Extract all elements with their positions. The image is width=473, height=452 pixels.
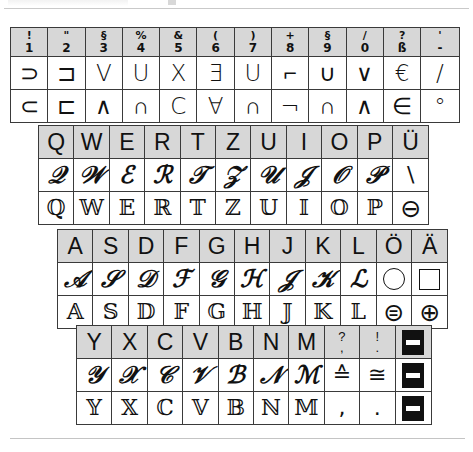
key-e[interactable]: E <box>110 126 145 158</box>
key-9[interactable]: § 9 <box>309 28 346 56</box>
key-m[interactable]: M <box>289 326 324 358</box>
sym-num-lower-12[interactable]: ° <box>421 90 458 122</box>
double-m[interactable]: 𝕄 <box>289 392 324 424</box>
double-g[interactable]: 𝔾 <box>200 296 235 328</box>
script-v[interactable]: 𝒱 <box>183 359 218 391</box>
sym-num-upper-1[interactable]: ⊃ <box>11 57 48 89</box>
key-j[interactable]: J <box>270 230 305 262</box>
key-comma[interactable]: ? , <box>325 326 360 358</box>
key-v[interactable]: V <box>183 326 218 358</box>
sym-num-lower-4[interactable]: ∩ <box>123 90 160 122</box>
sym-num-lower-10[interactable]: ∧ <box>347 90 384 122</box>
sym-circled-minus[interactable]: ⊖ <box>393 192 428 224</box>
double-b[interactable]: 𝔹 <box>219 392 254 424</box>
double-k[interactable]: 𝕂 <box>306 296 341 328</box>
key-u[interactable]: U <box>251 126 286 158</box>
key-b[interactable]: B <box>219 326 254 358</box>
sym-circle-outline[interactable] <box>377 263 412 295</box>
script-d[interactable]: 𝒟 <box>129 263 164 295</box>
sym-num-lower-11[interactable]: ∈ <box>384 90 421 122</box>
key-7[interactable]: ) 7 <box>235 28 272 56</box>
key-o[interactable]: O <box>322 126 357 158</box>
double-w[interactable]: 𝕎 <box>74 192 109 224</box>
sym-num-upper-6[interactable]: Ǝ <box>197 57 234 89</box>
script-t[interactable]: 𝒯 <box>181 159 216 191</box>
double-h[interactable]: ℍ <box>235 296 270 328</box>
script-l[interactable]: ℒ <box>341 263 376 295</box>
sym-num-upper-5[interactable]: X <box>160 57 197 89</box>
key-n[interactable]: N <box>254 326 289 358</box>
key-udiaeresis[interactable]: Ü <box>393 126 428 158</box>
double-s[interactable]: 𝕊 <box>93 296 128 328</box>
sym-num-upper-9[interactable]: ∪ <box>309 57 346 89</box>
sym-circled-equals[interactable]: ⊜ <box>377 296 412 328</box>
key-t[interactable]: T <box>181 126 216 158</box>
key-6[interactable]: ( 6 <box>197 28 234 56</box>
sym-num-lower-7[interactable]: ∩ <box>235 90 272 122</box>
key-x[interactable]: X <box>112 326 147 358</box>
key-box-dash-plain[interactable] <box>396 326 431 358</box>
key-4[interactable]: % 4 <box>123 28 160 56</box>
script-n[interactable]: 𝒩 <box>254 359 289 391</box>
script-m[interactable]: ℳ <box>289 359 324 391</box>
script-x[interactable]: 𝒳 <box>112 359 147 391</box>
double-d[interactable]: 𝔻 <box>129 296 164 328</box>
double-o[interactable]: 𝕆 <box>322 192 357 224</box>
key-period[interactable]: ! . <box>360 326 395 358</box>
script-e[interactable]: ℰ <box>110 159 145 191</box>
sym-num-upper-11[interactable]: € <box>384 57 421 89</box>
sym-num-lower-6[interactable]: ∀ <box>197 90 234 122</box>
double-n[interactable]: ℕ <box>254 392 289 424</box>
sym-period[interactable]: . <box>360 392 395 424</box>
double-q[interactable]: ℚ <box>39 192 74 224</box>
double-t[interactable]: 𝕋 <box>181 192 216 224</box>
key-y[interactable]: Y <box>77 326 112 358</box>
sym-comma[interactable]: , <box>325 392 360 424</box>
double-p[interactable]: ℙ <box>358 192 393 224</box>
key-a[interactable]: A <box>58 230 93 262</box>
key-8[interactable]: + 8 <box>272 28 309 56</box>
sym-num-upper-4[interactable]: U <box>123 57 160 89</box>
key-box-dash-script[interactable] <box>396 359 431 391</box>
double-i[interactable]: 𝕀 <box>287 192 322 224</box>
key-z[interactable]: Z <box>216 126 251 158</box>
script-j[interactable]: 𝒥 <box>270 263 305 295</box>
double-x[interactable]: 𝕏 <box>112 392 147 424</box>
key-box-dash-double[interactable] <box>396 392 431 424</box>
sym-num-upper-12[interactable]: / <box>421 57 458 89</box>
sym-estimates[interactable]: ≙ <box>325 359 360 391</box>
script-q[interactable]: 𝒬 <box>39 159 74 191</box>
script-o[interactable]: 𝒪 <box>322 159 357 191</box>
script-y[interactable]: 𝒴 <box>77 359 112 391</box>
double-j[interactable]: 𝕁 <box>270 296 305 328</box>
sym-num-lower-1[interactable]: ⊂ <box>11 90 48 122</box>
script-w[interactable]: 𝒲 <box>74 159 109 191</box>
script-c[interactable]: 𝒞 <box>148 359 183 391</box>
sym-num-upper-8[interactable]: ⌐ <box>272 57 309 89</box>
script-k[interactable]: 𝒦 <box>306 263 341 295</box>
key-2[interactable]: " 2 <box>48 28 85 56</box>
sym-num-upper-3[interactable]: V <box>86 57 123 89</box>
key-q[interactable]: Q <box>39 126 74 158</box>
script-g[interactable]: 𝒢 <box>200 263 235 295</box>
double-l[interactable]: 𝕃 <box>341 296 376 328</box>
double-z[interactable]: ℤ <box>216 192 251 224</box>
double-y[interactable]: 𝕐 <box>77 392 112 424</box>
sym-num-lower-9[interactable]: ∩ <box>309 90 346 122</box>
double-c[interactable]: ℂ <box>148 392 183 424</box>
key-hyphen[interactable]: ' - <box>421 28 458 56</box>
sym-num-lower-8[interactable]: ¬ <box>272 90 309 122</box>
key-p[interactable]: P <box>358 126 393 158</box>
sym-num-upper-7[interactable]: U <box>235 57 272 89</box>
key-w[interactable]: W <box>74 126 109 158</box>
sym-square-outline[interactable] <box>412 263 447 295</box>
script-b[interactable]: ℬ <box>219 359 254 391</box>
double-e[interactable]: 𝔼 <box>110 192 145 224</box>
key-3[interactable]: § 3 <box>86 28 123 56</box>
key-5[interactable]: & 5 <box>160 28 197 56</box>
key-f[interactable]: F <box>164 230 199 262</box>
sym-backslash[interactable]: \ <box>393 159 428 191</box>
key-d[interactable]: D <box>129 230 164 262</box>
key-0[interactable]: / 0 <box>347 28 384 56</box>
double-f[interactable]: 𝔽 <box>164 296 199 328</box>
